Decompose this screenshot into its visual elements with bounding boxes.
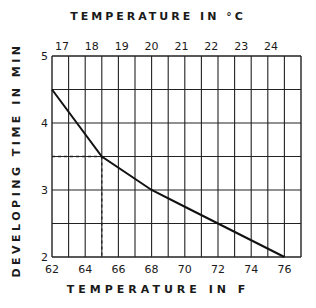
x-tick-label: 66 [111,263,125,276]
x2-tick-label: 21 [174,40,188,53]
x-tick-label: 74 [244,263,258,276]
developing-time-chart: 626466687072747617181920212223242345 [0,0,316,308]
y-tick-label: 4 [41,117,48,130]
x-tick-label: 62 [45,263,59,276]
y-tick-label: 3 [41,184,48,197]
x-tick-label: 72 [211,263,225,276]
x2-tick-label: 18 [85,40,99,53]
x-tick-label: 64 [78,263,92,276]
x2-tick-label: 23 [234,40,248,53]
x2-tick-label: 17 [55,40,69,53]
x-tick-label: 76 [277,263,291,276]
y-tick-label: 2 [41,251,48,264]
y-tick-label: 5 [41,50,48,63]
x2-tick-label: 20 [145,40,159,53]
x-tick-label: 68 [145,263,159,276]
x2-tick-label: 24 [264,40,278,53]
x2-tick-label: 22 [204,40,218,53]
x2-tick-label: 19 [115,40,129,53]
x-tick-label: 70 [178,263,192,276]
